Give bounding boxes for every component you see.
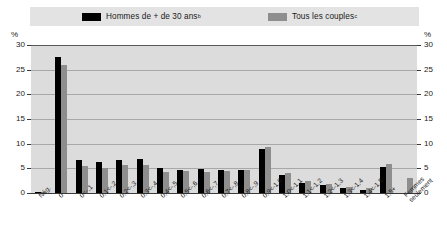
bar-category bbox=[194, 45, 214, 193]
bar-category bbox=[356, 45, 376, 193]
x-axis-labels: Nég.00<-,10,1<-,20,2<-,30,3<-,40,4<-,50,… bbox=[31, 194, 417, 244]
legend-note-couples: c bbox=[354, 14, 357, 19]
bar-category bbox=[214, 45, 234, 193]
bar-category bbox=[31, 45, 51, 193]
legend-label-couples: Tous les couples bbox=[292, 12, 354, 21]
y-tick-label-right-5: 5 bbox=[424, 163, 444, 172]
y-tick-mark-right-15 bbox=[417, 119, 421, 120]
y-tick-label-right-20: 20 bbox=[424, 89, 444, 98]
y-tick-label-right-25: 25 bbox=[424, 65, 444, 74]
bar-category bbox=[315, 45, 335, 193]
y-tick-label-right-15: 15 bbox=[424, 114, 444, 123]
y-tick-label-left-0: 0 bbox=[5, 188, 25, 197]
bar-category bbox=[173, 45, 193, 193]
legend-item-couples: Tous les couplesc bbox=[268, 7, 357, 26]
y-tick-label-right-0: 0 bbox=[424, 188, 444, 197]
bar-category bbox=[72, 45, 92, 193]
chart-legend: Hommes de + de 30 ansb Tous les couplesc bbox=[30, 7, 419, 26]
y-tick-mark-right-10 bbox=[417, 144, 421, 145]
bar-category bbox=[133, 45, 153, 193]
y-tick-label-left-5: 5 bbox=[5, 163, 25, 172]
legend-label-hommes: Hommes de + de 30 ans bbox=[106, 12, 198, 21]
legend-note-hommes: b bbox=[198, 14, 201, 19]
legend-swatch-black bbox=[82, 13, 101, 21]
y-tick-mark-right-25 bbox=[417, 70, 421, 71]
y-tick-label-left-30: 30 bbox=[5, 40, 25, 49]
bar-category bbox=[376, 45, 396, 193]
y-tick-mark-right-30 bbox=[417, 45, 421, 46]
chart-container: Hommes de + de 30 ansb Tous les couplesc… bbox=[0, 0, 447, 244]
legend-item-hommes: Hommes de + de 30 ansb bbox=[82, 7, 201, 26]
legend-swatch-gray bbox=[268, 13, 287, 21]
bar-category bbox=[397, 45, 417, 193]
y-axis-unit-right: % bbox=[424, 30, 431, 39]
plot-area bbox=[31, 45, 417, 194]
y-axis-unit-left: % bbox=[11, 30, 18, 39]
bar-category bbox=[51, 45, 71, 193]
y-tick-mark-right-20 bbox=[417, 94, 421, 95]
bar-category bbox=[275, 45, 295, 193]
bar-couples bbox=[61, 65, 67, 193]
bar-category bbox=[234, 45, 254, 193]
y-tick-label-left-20: 20 bbox=[5, 89, 25, 98]
y-tick-label-left-15: 15 bbox=[5, 114, 25, 123]
bar-category bbox=[92, 45, 112, 193]
y-tick-mark-right-5 bbox=[417, 168, 421, 169]
bar-category bbox=[336, 45, 356, 193]
bar-category bbox=[112, 45, 132, 193]
y-tick-label-left-25: 25 bbox=[5, 65, 25, 74]
y-tick-label-right-30: 30 bbox=[424, 40, 444, 49]
bar-category bbox=[153, 45, 173, 193]
bar-category bbox=[295, 45, 315, 193]
bar-group bbox=[31, 45, 417, 193]
y-tick-label-right-10: 10 bbox=[424, 139, 444, 148]
bar-category bbox=[254, 45, 274, 193]
y-tick-label-left-10: 10 bbox=[5, 139, 25, 148]
